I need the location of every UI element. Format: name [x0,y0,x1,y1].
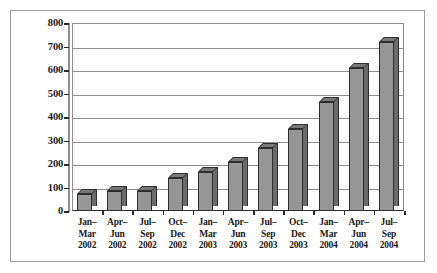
bar-side-face [303,124,308,206]
bar-chart: 8007006005004003002001000 Jan–Mar2002Apr… [11,11,426,263]
x-tick-label-line: 2002 [72,240,102,252]
bar-slot[interactable] [258,23,273,211]
x-tick-label-line: 2003 [223,240,253,252]
x-tick-label-line: Jan– [313,217,343,229]
y-tick-mark [64,94,69,96]
y-tick-mark [64,23,69,25]
x-tick-label-line: Oct– [163,217,193,229]
x-tick-label: Jul–Sep2002 [132,217,162,252]
y-tick-label: 800 [11,18,63,29]
x-tick-label: Oct–Dec2002 [163,217,193,252]
x-tick-label-line: Jul– [253,217,283,229]
bar-side-face [334,97,339,206]
bar-slot[interactable] [319,23,334,211]
bar[interactable] [107,191,122,211]
x-tick-label-line: Jan– [72,217,102,229]
y-tick-mark [64,141,69,143]
x-axis-labels: Jan–Mar2002Apr–Jun2002Jul–Sep2002Oct–Dec… [72,217,404,261]
y-tick-mark [64,164,69,166]
x-tick-mark [253,211,255,215]
x-tick-label-line: 2002 [102,240,132,252]
y-tick-label: 400 [11,112,63,123]
y-tick-mark [64,70,69,72]
y-tick-label: 700 [11,42,63,53]
y-tick-mark [64,211,69,213]
bar-slot[interactable] [77,23,92,211]
bar-side-face [273,143,278,206]
y-tick-label: 100 [11,183,63,194]
x-tick-mark [404,211,406,215]
bar[interactable] [228,162,243,211]
x-tick-label-line: Sep [253,229,283,241]
y-tick-label: 200 [11,159,63,170]
x-tick-label-line: 2004 [313,240,343,252]
x-tick-mark [132,211,134,215]
bar-side-face [364,63,369,206]
x-tick-label-line: Jan– [193,217,223,229]
bar-slot[interactable] [198,23,213,211]
x-tick-label-line: Apr– [223,217,253,229]
bar-slot[interactable] [228,23,243,211]
x-tick-label: Apr–Jun2002 [102,217,132,252]
x-tick-label-line: 2004 [344,240,374,252]
x-axis-ticks [72,211,404,216]
bar-slot[interactable] [137,23,152,211]
x-tick-label-line: Jun [102,229,132,241]
y-tick-label: 500 [11,89,63,100]
x-tick-label: Jul–Sep2004 [374,217,404,252]
y-tick-mark [64,188,69,190]
x-tick-label: Apr–Jun2004 [344,217,374,252]
x-tick-label-line: Mar [313,229,343,241]
x-tick-mark [344,211,346,215]
bar-slot[interactable] [288,23,303,211]
x-tick-label-line: Mar [193,229,223,241]
x-tick-mark [313,211,315,215]
x-tick-label-line: Apr– [102,217,132,229]
x-tick-label: Jan–Mar2004 [313,217,343,252]
x-tick-mark [374,211,376,215]
x-tick-mark [283,211,285,215]
x-tick-mark [223,211,225,215]
x-tick-label: Apr–Jun2003 [223,217,253,252]
figure-frame: 8007006005004003002001000 Jan–Mar2002Apr… [10,10,425,262]
x-tick-mark [193,211,195,215]
y-tick-mark [64,47,69,49]
x-tick-label-line: Jul– [132,217,162,229]
bar[interactable] [77,194,92,211]
x-tick-label-line: 2003 [283,240,313,252]
bar[interactable] [288,129,303,211]
bar-slot[interactable] [168,23,183,211]
x-tick-label-line: 2003 [193,240,223,252]
x-tick-label-line: 2002 [132,240,162,252]
x-tick-label: Oct–Dec2003 [283,217,313,252]
bar[interactable] [379,42,394,211]
y-tick-label: 0 [11,206,63,217]
bar[interactable] [319,102,334,211]
bar-slot[interactable] [349,23,364,211]
bar[interactable] [168,178,183,211]
bar[interactable] [137,191,152,211]
bar-side-face [183,173,188,206]
bar-side-face [243,157,248,206]
bar-slot[interactable] [107,23,122,211]
x-tick-label-line: 2002 [163,240,193,252]
bar-side-face [394,37,399,206]
y-tick-label: 300 [11,136,63,147]
x-tick-label: Jan–Mar2002 [72,217,102,252]
bars-layer [72,23,404,211]
bar[interactable] [349,68,364,211]
bar[interactable] [258,148,273,211]
x-tick-label-line: Jun [223,229,253,241]
bar[interactable] [198,172,213,211]
bar-side-face [213,167,218,206]
x-tick-label-line: Apr– [344,217,374,229]
x-tick-label-line: Jun [344,229,374,241]
x-tick-label-line: Sep [374,229,404,241]
x-tick-label-line: Dec [283,229,313,241]
x-tick-label-line: Dec [163,229,193,241]
y-axis-labels: 8007006005004003002001000 [9,11,63,263]
bar-slot[interactable] [379,23,394,211]
x-tick-label: Jan–Mar2003 [193,217,223,252]
y-tick-label: 600 [11,65,63,76]
x-tick-mark [102,211,104,215]
